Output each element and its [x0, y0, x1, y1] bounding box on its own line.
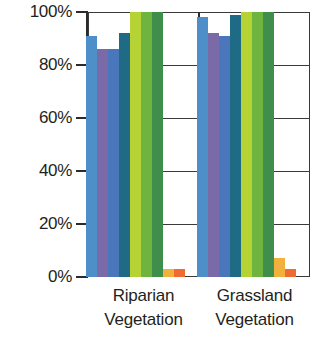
bar: [174, 269, 185, 277]
y-axis-tick-label: 0%: [6, 268, 72, 285]
bar-group: [197, 12, 296, 277]
bar: [252, 12, 263, 277]
bar: [141, 12, 152, 277]
y-axis-tick-label: 40%: [6, 162, 72, 179]
bar: [86, 36, 97, 277]
bar: [163, 269, 174, 277]
category-label-line-2: Vegetation: [199, 308, 310, 332]
bar: [219, 36, 230, 277]
bar: [263, 12, 274, 277]
bar: [119, 33, 130, 277]
category-label-line-1: Grassland: [217, 286, 293, 305]
bar-chart: 100% 80% 60% 40% 20% 0% Riparian Vegetat…: [0, 0, 331, 356]
bar-group: [86, 12, 185, 277]
bar: [285, 269, 296, 277]
x-axis-category-label: Grassland Vegetation: [199, 284, 310, 332]
category-label-line-1: Riparian: [113, 286, 175, 305]
bar: [208, 33, 219, 277]
bar: [130, 12, 141, 277]
y-axis-tick-label: 20%: [6, 215, 72, 232]
bar: [230, 15, 241, 277]
bar: [241, 12, 252, 277]
category-label-line-2: Vegetation: [88, 308, 199, 332]
y-axis-tick-label: 80%: [6, 56, 72, 73]
x-axis-labels: Riparian Vegetation Grassland Vegetation: [88, 284, 310, 344]
bar: [274, 258, 285, 277]
y-axis-labels: 100% 80% 60% 40% 20% 0%: [2, 0, 72, 280]
plot-area: [88, 12, 310, 277]
y-axis-tick-label: 60%: [6, 109, 72, 126]
y-axis-tick-label: 100%: [6, 3, 72, 20]
bar: [197, 17, 208, 277]
bar: [152, 12, 163, 277]
x-axis-category-label: Riparian Vegetation: [88, 284, 199, 332]
bar: [97, 49, 108, 277]
bar: [108, 49, 119, 277]
